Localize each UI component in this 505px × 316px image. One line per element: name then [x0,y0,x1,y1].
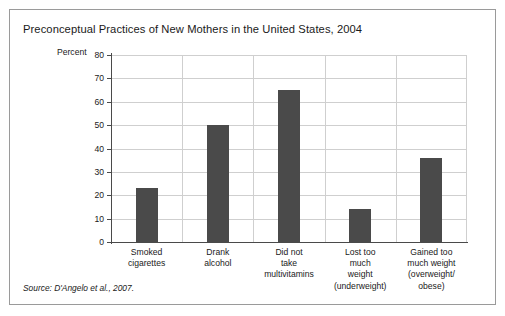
y-tick-label: 80 [94,50,104,60]
x-tick-label: Lost toomuchweight(underweight) [321,247,399,292]
source-note: Source: D'Angelo et al., 2007. [23,283,134,293]
y-tick-label: 40 [94,144,104,154]
x-tick-label: Gained toomuch weight(overweight/obese) [392,247,470,292]
y-tick-label: 70 [94,73,104,83]
gridline-vertical [325,55,326,243]
x-tick-label-line: alcohol [179,258,257,269]
x-tick-label: Smokedcigarettes [108,247,186,269]
x-tick-label-line: multivitamins [250,269,328,280]
bar [349,209,371,242]
gridline-vertical [396,55,397,243]
bar [420,158,442,242]
chart-plot: 01020304050607080 SmokedcigarettesDranka… [111,55,467,243]
x-tick-label-line: weight [321,269,399,280]
page-title: Preconceptual Practices of New Mothers i… [23,23,362,35]
x-tick-label-line: much weight [392,258,470,269]
x-tick-label: Drankalcohol [179,247,257,269]
y-tick-label: 30 [94,167,104,177]
y-tick-label: 0 [99,237,104,247]
y-tick-label: 50 [94,120,104,130]
x-tick-label-line: (underweight) [321,281,399,292]
x-tick-label-line: cigarettes [108,258,186,269]
figure-panel: Preconceptual Practices of New Mothers i… [9,9,496,305]
x-tick-label-line: much [321,258,399,269]
bar [136,188,158,242]
x-tick-label: Did nottakemultivitamins [250,247,328,281]
x-tick-label-line: Did not [250,247,328,258]
x-tick-label-line: Drank [179,247,257,258]
bar [278,90,300,242]
gridline-vertical [253,55,254,243]
bar [207,125,229,242]
gridline-horizontal [111,55,467,56]
x-tick-label-line: obese) [392,281,470,292]
gridline-horizontal [111,78,467,79]
x-tick-label-line: Smoked [108,247,186,258]
y-tick-label: 20 [94,190,104,200]
x-tick-label-line: (overweight/ [392,269,470,280]
y-axis-title: Percent [57,47,87,57]
y-tick-label: 10 [94,214,104,224]
x-tick-label-line: take [250,258,328,269]
x-axis-line [110,242,468,243]
y-axis-line [111,53,112,244]
x-tick-label-line: Lost too [321,247,399,258]
x-tick-label-line: Gained too [392,247,470,258]
y-tick-label: 60 [94,97,104,107]
gridline-vertical [182,55,183,243]
